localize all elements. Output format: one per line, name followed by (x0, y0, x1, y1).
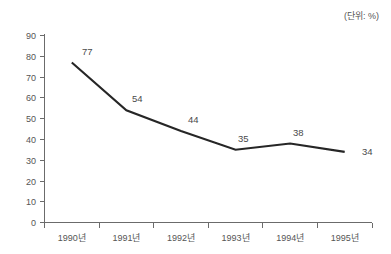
data-label: 44 (188, 114, 199, 125)
data-label: 35 (238, 133, 249, 144)
data-series-line (72, 63, 345, 152)
data-label: 34 (362, 146, 373, 157)
data-label: 54 (132, 93, 143, 104)
x-tick-label: 1990년 (58, 233, 86, 243)
data-label: 77 (82, 46, 93, 57)
x-tick-label: 1992년 (167, 233, 195, 243)
y-tick-label: 80 (26, 52, 36, 62)
x-tick-label: 1995년 (331, 233, 359, 243)
x-tick-label: 1993년 (222, 233, 250, 243)
y-tick-label: 70 (26, 73, 36, 83)
y-tick-label: 30 (26, 156, 36, 166)
y-tick-label: 10 (26, 197, 36, 207)
y-tick-label: 20 (26, 177, 36, 187)
y-axis-ticks: 90 80 70 60 50 40 30 20 10 0 (26, 31, 45, 228)
line-chart: (단위: %) 90 80 70 60 50 40 30 20 10 (0, 0, 391, 254)
data-point-labels: 77 54 44 35 38 34 (82, 46, 373, 157)
chart-plot-area: 90 80 70 60 50 40 30 20 10 0 1990년 1991년… (0, 0, 391, 254)
data-label: 38 (293, 127, 304, 138)
y-tick-label: 50 (26, 114, 36, 124)
x-tick-label: 1994년 (276, 233, 304, 243)
x-axis-labels: 1990년 1991년 1992년 1993년 1994년 1995년 (58, 233, 359, 243)
x-tick-label: 1991년 (112, 233, 140, 243)
x-axis-ticks (45, 223, 373, 229)
y-tick-label: 0 (31, 218, 36, 228)
y-tick-label: 90 (26, 31, 36, 41)
y-tick-label: 60 (26, 93, 36, 103)
y-tick-label: 40 (26, 135, 36, 145)
